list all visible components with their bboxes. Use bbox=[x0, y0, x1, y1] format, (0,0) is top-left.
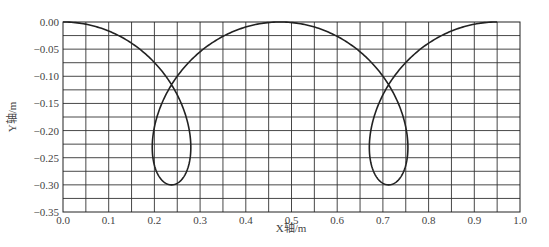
y-tick-label: −0.25 bbox=[34, 152, 60, 164]
x-tick-label: 1.0 bbox=[513, 214, 527, 226]
x-tick-label: 0.9 bbox=[467, 214, 481, 226]
y-tick-label: −0.20 bbox=[34, 125, 60, 137]
x-tick-label: 0.1 bbox=[102, 214, 116, 226]
x-tick-label: 0.8 bbox=[422, 214, 436, 226]
trajectory-chart: 0.00.10.20.30.40.50.60.70.80.91.0 0.00−0… bbox=[0, 0, 549, 247]
x-tick-label: 0.2 bbox=[148, 214, 162, 226]
x-tick-label: 0.6 bbox=[330, 214, 344, 226]
y-tick-label: −0.30 bbox=[34, 179, 60, 191]
y-axis-ticks: 0.00−0.05−0.10−0.15−0.20−0.25−0.30−0.35 bbox=[34, 16, 60, 218]
y-tick-label: 0.00 bbox=[40, 16, 60, 28]
x-tick-label: 0.7 bbox=[376, 214, 390, 226]
y-tick-label: −0.05 bbox=[34, 43, 60, 55]
x-axis-label: X轴/m bbox=[276, 221, 307, 234]
x-tick-label: 0.3 bbox=[193, 214, 207, 226]
y-tick-label: −0.10 bbox=[34, 70, 60, 82]
y-tick-label: −0.35 bbox=[34, 206, 60, 218]
grid-lines bbox=[63, 22, 520, 212]
y-tick-label: −0.15 bbox=[34, 97, 60, 109]
x-tick-label: 0.4 bbox=[239, 214, 253, 226]
y-axis-label: Y轴/m bbox=[5, 101, 18, 132]
